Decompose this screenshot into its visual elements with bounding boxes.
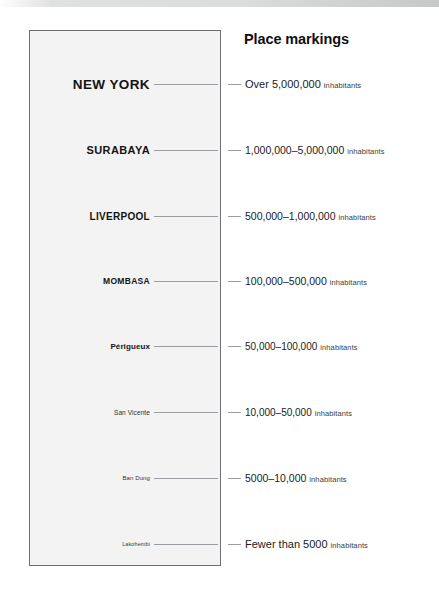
population-range-text: 50,000–100,000 [245,341,317,352]
place-name-label: SURABAYA [86,144,150,156]
inhabitants-word: inhabitants [324,81,361,90]
place-name-label: LIVERPOOL [90,211,150,222]
population-range-text: 1,000,000–5,000,000 [245,144,344,156]
leader-line-outer [228,216,241,217]
place-name-label: San Vicente [114,409,150,416]
population-class-label: Over 5,000,000inhabitants [245,78,361,90]
leader-line-outer [228,544,241,545]
inhabitants-word: inhabitants [320,343,357,352]
inhabitants-word: inhabitants [330,278,367,287]
population-range-text: Fewer than 5000 [245,538,328,550]
population-class-label: 50,000–100,000inhabitants [245,341,358,352]
leader-line-inner [154,84,218,85]
leader-line-inner [154,216,218,217]
population-class-label: 100,000–500,000inhabitants [245,275,367,287]
leader-line-inner [154,281,218,282]
population-class-label: 1,000,000–5,000,000inhabitants [245,144,385,156]
population-class-label: 5000–10,000inhabitants [245,472,347,484]
inhabitants-word: inhabitants [331,541,368,550]
population-range-text: Over 5,000,000 [245,78,321,90]
population-range-text: 100,000–500,000 [245,275,327,287]
leader-line-outer [228,478,241,479]
leader-line-inner [154,346,218,347]
place-name-label: MOMBASA [103,276,150,286]
population-range-text: 5000–10,000 [245,472,306,484]
inhabitants-word: inhabitants [347,147,384,156]
population-class-label: 500,000–1,000,000inhabitants [245,210,376,222]
map-sample-panel [29,30,221,566]
inhabitants-word: inhabitants [315,409,352,418]
scan-edge-band [0,0,439,7]
legend-page: Place markings NEW YORKOver 5,000,000inh… [0,0,439,593]
place-name-label: Périgueux [110,342,150,351]
leader-line-inner [154,478,218,479]
legend-title: Place markings [244,31,349,47]
leader-line-inner [154,412,218,413]
inhabitants-word: inhabitants [339,213,376,222]
leader-line-outer [228,412,241,413]
leader-line-outer [228,150,241,151]
leader-line-inner [154,544,218,545]
place-name-label: Lakohembi [122,541,150,547]
leader-line-outer [228,281,241,282]
population-class-label: Fewer than 5000inhabitants [245,538,368,550]
inhabitants-word: inhabitants [309,475,346,484]
population-range-text: 500,000–1,000,000 [245,210,336,222]
population-range-text: 10,000–50,000 [245,407,312,418]
leader-line-inner [154,150,218,151]
leader-line-outer [228,346,241,347]
place-name-label: NEW YORK [73,77,150,92]
place-name-label: Ban Dung [123,475,151,481]
leader-line-outer [228,84,241,85]
population-class-label: 10,000–50,000inhabitants [245,407,352,418]
